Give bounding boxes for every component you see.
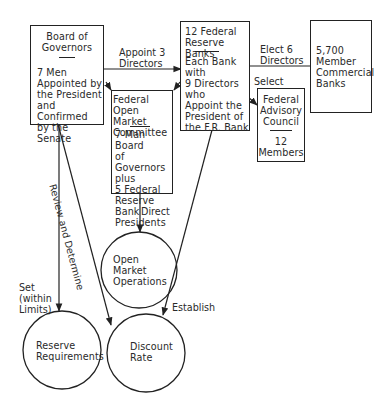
fomc-box: Federal Open Market Committee 7-Man Boar… bbox=[111, 90, 173, 194]
board-body: 7 Men Appointed by the President and Con… bbox=[37, 67, 103, 144]
council-title: Federal Advisory Council bbox=[258, 94, 304, 127]
discount-rate-label: Discount Rate bbox=[130, 341, 173, 363]
board-title: Board of Governors bbox=[31, 31, 103, 53]
banks-title: 12 Federal Reserve Banks bbox=[185, 26, 249, 59]
council-body: 12 Members bbox=[258, 136, 304, 158]
member-banks-body: 5,700 Member Commercial Banks bbox=[316, 45, 374, 89]
appoint-directors-label: Appoint 3 Directors bbox=[119, 47, 165, 69]
banks-body: Each Bank with 9 Directors who Appoint t… bbox=[185, 56, 249, 133]
member-banks-box: 5,700 Member Commercial Banks bbox=[310, 20, 372, 113]
divider bbox=[130, 126, 150, 127]
federal-advisory-council-box: Federal Advisory Council 12 Members bbox=[257, 88, 305, 162]
edge-board-to-fomc bbox=[106, 82, 111, 90]
open-market-operations-label: Open Market Operations bbox=[113, 254, 167, 287]
set-within-limits-label: Set (within Limits) bbox=[19, 282, 52, 315]
direct-label: Direct bbox=[141, 206, 170, 217]
establish-label: Establish bbox=[172, 302, 215, 313]
divider bbox=[270, 130, 292, 131]
board-of-governors-box: Board of Governors 7 Men Appointed by th… bbox=[30, 25, 104, 125]
divider bbox=[59, 57, 75, 58]
elect-directors-label: Elect 6 Directors bbox=[260, 44, 304, 66]
divider bbox=[195, 51, 219, 52]
federal-reserve-banks-box: 12 Federal Reserve Banks Each Bank with … bbox=[180, 21, 250, 131]
reserve-requirements-label: Reserve Requirements bbox=[36, 340, 104, 362]
select-label: Select bbox=[254, 76, 284, 87]
